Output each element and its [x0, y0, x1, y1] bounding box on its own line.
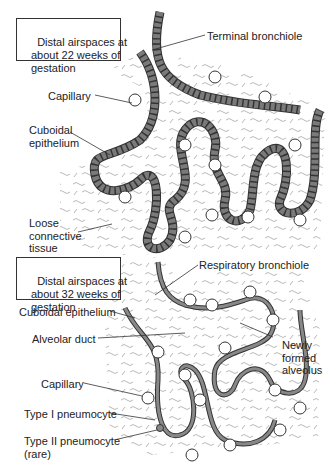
label-type-i-pneumocyte: Type I pneumocyte — [24, 408, 117, 421]
label-capillary-1: Capillary — [48, 90, 91, 103]
label-type-ii-pneumocyte: Type II pneumocyte (rare) — [24, 435, 120, 460]
label-respiratory-bronchiole: Respiratory bronchiole — [199, 259, 309, 272]
label-loose-connective-tissue: Loose connective tissue — [29, 217, 82, 255]
label-cuboidal-epithelium-1: Cuboidal epithelium — [29, 124, 79, 149]
label-cuboidal-epithelium-2: Cuboidal epithelium — [19, 306, 116, 319]
label-terminal-bronchiole: Terminal bronchiole — [207, 30, 302, 43]
label-newly-formed-alveolus: Newly formed alveolus — [282, 339, 322, 377]
panel2-title-box: Distal airspaces at about 32 weeks of ge… — [16, 257, 121, 300]
type-ii-pneumocyte-cell — [157, 425, 164, 432]
label-alveolar-duct: Alveolar duct — [32, 333, 96, 346]
panel1-title-box: Distal airspaces at about 22 weeks of ge… — [16, 18, 121, 61]
label-capillary-2: Capillary — [41, 378, 84, 391]
